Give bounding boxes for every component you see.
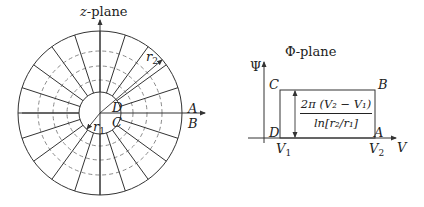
r1-subscript: 1 [99, 126, 105, 136]
label-a-z: A [188, 102, 197, 115]
label-c-z: C [112, 116, 122, 129]
plane-suffix: -plane [87, 4, 128, 19]
field-line [75, 35, 94, 93]
v2-subscript: 2 [378, 148, 384, 158]
label-b-phi: B [378, 78, 388, 91]
label-d-z: D [112, 101, 122, 114]
label-r1: r1 [93, 120, 105, 136]
tick-v1: V1 [276, 142, 291, 158]
v1-symbol: V [276, 141, 285, 156]
field-line [117, 125, 166, 161]
phi-plane-title: Φ-plane [285, 45, 336, 58]
label-d-phi: D [269, 126, 279, 139]
height-formula: 2π (V₂ − V₁) ln[r₂/r₁] [300, 97, 372, 130]
label-r2: r2 [146, 50, 158, 66]
v1-subscript: 1 [285, 148, 291, 158]
field-line [117, 65, 166, 101]
v2-symbol: V [369, 141, 378, 156]
formula-denominator: ln[r₂/r₁] [300, 114, 372, 130]
formula-numerator: 2π (V₂ − V₁) [300, 97, 372, 114]
tick-v2: V2 [369, 142, 384, 158]
label-c-phi: C [269, 78, 279, 91]
field-line [75, 133, 94, 191]
label-b-z: B [188, 117, 198, 130]
label-a-phi: A [374, 126, 383, 139]
psi-axis-label: Ψ [250, 60, 261, 73]
r2-subscript: 2 [152, 56, 158, 66]
z-variable: z [80, 4, 87, 19]
v-axis-label: V [397, 141, 406, 154]
r2-arrow [100, 60, 162, 113]
z-plane-title: z-plane [80, 5, 128, 18]
